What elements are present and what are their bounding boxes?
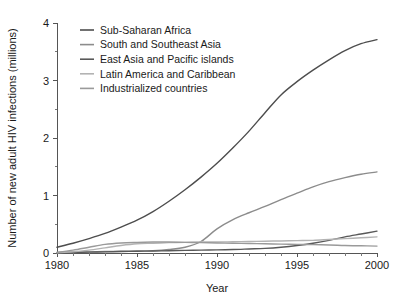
chart-figure: 0123419801985199019952000 Sub-Saharan Af…	[0, 0, 408, 301]
x-tick-label: 2000	[365, 259, 389, 271]
x-tick-label: 1980	[45, 259, 69, 271]
legend-label-4: Industrialized countries	[100, 82, 207, 94]
y-tick-label: 2	[43, 132, 49, 144]
y-tick-label: 0	[43, 247, 49, 259]
line-chart: 0123419801985199019952000 Sub-Saharan Af…	[0, 0, 408, 301]
y-tick-label: 1	[43, 190, 49, 202]
legend-label-3: Latin America and Caribbean	[100, 68, 236, 80]
x-tick-label: 1995	[285, 259, 309, 271]
chart-legend: Sub-Saharan AfricaSouth and Southeast As…	[80, 24, 236, 94]
y-tick-label: 3	[43, 75, 49, 87]
legend-label-1: South and Southeast Asia	[100, 38, 221, 50]
x-tick-label: 1985	[125, 259, 149, 271]
x-tick-label: 1990	[205, 259, 229, 271]
x-axis-title: Year	[206, 282, 229, 294]
legend-label-0: Sub-Saharan Africa	[100, 24, 191, 36]
y-tick-label: 4	[43, 17, 49, 29]
y-axis-title: Number of new adult HIV infections (mill…	[6, 28, 18, 247]
legend-label-2: East Asia and Pacific islands	[100, 53, 234, 65]
